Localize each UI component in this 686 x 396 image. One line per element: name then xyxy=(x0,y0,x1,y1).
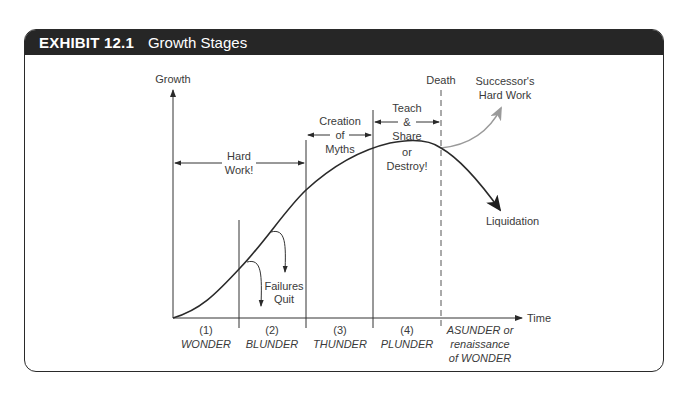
growth-stages-diagram: Growth Time Death Hard Work! Creation of… xyxy=(0,0,686,396)
svg-text:THUNDER: THUNDER xyxy=(313,338,367,350)
svg-text:(3): (3) xyxy=(333,324,346,336)
svg-text:ASUNDER or: ASUNDER or xyxy=(446,324,515,336)
liquidation-label: Liquidation xyxy=(486,215,539,227)
stage-3: (3) THUNDER xyxy=(313,324,367,350)
svg-text:(1): (1) xyxy=(199,324,212,336)
hard-work-line2: Work! xyxy=(225,164,254,176)
failures-line2: Quit xyxy=(274,293,294,305)
teach-line4: or xyxy=(402,146,412,158)
teach-line1: Teach xyxy=(392,102,421,114)
creation-line2: of xyxy=(335,129,345,141)
svg-text:WONDER: WONDER xyxy=(181,338,231,350)
x-axis-label: Time xyxy=(527,312,551,324)
creation-line1: Creation xyxy=(319,115,361,127)
growth-curve xyxy=(173,140,500,318)
successor-curve xyxy=(441,108,501,148)
svg-text:of WONDER: of WONDER xyxy=(449,352,511,364)
failures-arrow-1 xyxy=(247,261,261,306)
stage-2: (2) BLUNDER xyxy=(246,324,299,350)
hard-work-line1: Hard xyxy=(227,150,251,162)
svg-text:PLUNDER: PLUNDER xyxy=(381,338,434,350)
stage-4: (4) PLUNDER xyxy=(381,324,434,350)
y-axis-label: Growth xyxy=(155,73,190,85)
stage-5: ASUNDER or renaissance of WONDER xyxy=(446,324,515,364)
svg-text:(4): (4) xyxy=(400,324,413,336)
svg-text:(2): (2) xyxy=(265,324,278,336)
failures-arrow-2 xyxy=(271,231,285,272)
svg-text:BLUNDER: BLUNDER xyxy=(246,338,299,350)
creation-line3: Myths xyxy=(325,143,355,155)
successor-line1: Successor's xyxy=(476,75,535,87)
failures-line1: Failures xyxy=(264,280,304,292)
successor-line2: Hard Work xyxy=(479,89,532,101)
teach-line5: Destroy! xyxy=(387,160,428,172)
stage-1: (1) WONDER xyxy=(181,324,231,350)
death-label: Death xyxy=(426,74,455,86)
svg-text:renaissance: renaissance xyxy=(450,338,509,350)
teach-line2: & xyxy=(403,116,411,128)
